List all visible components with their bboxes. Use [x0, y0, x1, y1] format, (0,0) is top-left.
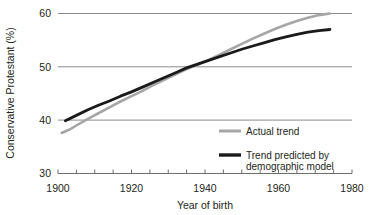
x-tick-label-1940: 1940 [193, 182, 217, 194]
y-tick-label-60: 60 [39, 7, 51, 19]
y-tick-label-50: 50 [39, 61, 51, 73]
legend-label-actual-trend: Actual trend [246, 126, 299, 137]
legend-label-predicted-trend-line1: Trend predicted by [246, 150, 329, 161]
x-axis-title: Year of birth [177, 199, 233, 211]
chart-figure: 60 50 40 30 1900 1920 1940 1960 1980 Yea… [0, 0, 370, 215]
x-tick-label-1900: 1900 [46, 182, 70, 194]
legend-label-predicted-trend-line2: demographic model [246, 161, 334, 172]
x-tick-label-1920: 1920 [120, 182, 144, 194]
x-tick-label-1960: 1960 [267, 182, 291, 194]
y-axis-title: Conservative Protestant (%) [4, 27, 16, 158]
x-tick-label-1980: 1980 [340, 182, 364, 194]
chart-svg: 60 50 40 30 1900 1920 1940 1960 1980 Yea… [0, 0, 370, 215]
y-tick-label-30: 30 [39, 167, 51, 179]
y-tick-label-40: 40 [39, 114, 51, 126]
